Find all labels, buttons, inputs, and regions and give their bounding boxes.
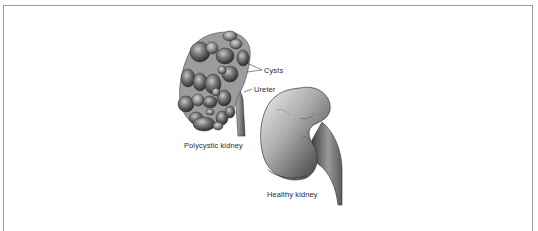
- healthy-kidney-label: Healthy kidney: [267, 190, 318, 199]
- ureter-label: Ureter: [254, 85, 275, 94]
- cysts-label: Cysts: [264, 66, 283, 75]
- polycystic-kidney-label: Polycystic kidney: [184, 141, 243, 150]
